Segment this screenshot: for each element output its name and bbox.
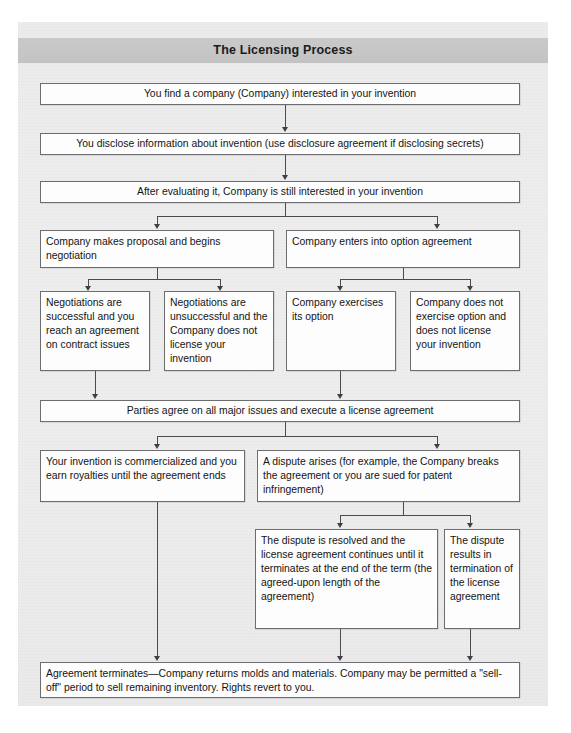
arrowhead-icon	[154, 656, 160, 661]
arrowhead-icon	[434, 444, 440, 449]
node-dispute-arises: A dispute arises (for example, the Compa…	[257, 450, 520, 502]
node-does-not-exercise-option: Company does not exercise option and doe…	[410, 291, 520, 371]
node-dispute-resolved-label: The dispute is resolved and the license …	[256, 534, 437, 604]
edge-find-to-disclose	[285, 105, 286, 129]
node-exercises-option-label: Company exercises its option	[287, 296, 395, 324]
node-execute-license-label: Parties agree on all major issues and ex…	[121, 404, 440, 418]
arrowhead-icon	[337, 394, 343, 399]
node-find-company: You find a company (Company) interested …	[40, 83, 520, 105]
node-negotiations-successful-label: Negotiations are successful and you reac…	[41, 296, 149, 352]
node-negotiations-unsuccessful: Negotiations are unsuccessful and the Co…	[164, 291, 274, 371]
arrowhead-icon	[337, 523, 343, 528]
arrowhead-icon	[92, 394, 98, 399]
node-commercialized-royalties-label: Your invention is commercialized and you…	[41, 455, 244, 483]
licensing-process-flowchart: The Licensing Process You find a company…	[0, 0, 571, 733]
node-option-agreement: Company enters into option agreement	[286, 230, 520, 268]
node-disclose-information-label: You disclose information about invention…	[70, 137, 489, 151]
node-execute-license: Parties agree on all major issues and ex…	[40, 400, 520, 422]
node-negotiations-unsuccessful-label: Negotiations are unsuccessful and the Co…	[165, 296, 273, 366]
node-dispute-resolved: The dispute is resolved and the license …	[255, 529, 438, 629]
node-commercialized-royalties: Your invention is commercialized and you…	[40, 450, 245, 502]
node-find-company-label: You find a company (Company) interested …	[138, 87, 422, 101]
edge-execute-split	[157, 436, 437, 437]
edge-interested-stem	[285, 203, 286, 217]
node-still-interested-label: After evaluating it, Company is still in…	[131, 185, 429, 199]
node-agreement-terminates-label: Agreement terminates—Company returns mol…	[41, 667, 519, 695]
edge-interested-split	[157, 216, 437, 217]
edge-termination-to-terminates	[470, 629, 471, 658]
figure-title: The Licensing Process	[18, 38, 548, 63]
node-agreement-terminates: Agreement terminates—Company returns mol…	[40, 662, 520, 698]
arrowhead-icon	[154, 224, 160, 229]
node-still-interested: After evaluating it, Company is still in…	[40, 181, 520, 203]
node-disclose-information: You disclose information about invention…	[40, 133, 520, 155]
arrowhead-icon	[282, 127, 288, 132]
node-dispute-termination-label: The dispute results in termination of th…	[445, 534, 519, 604]
edge-dispute-stem	[403, 502, 404, 516]
arrowhead-icon	[154, 444, 160, 449]
node-negotiations-successful: Negotiations are successful and you reac…	[40, 291, 150, 371]
edge-proposal-split	[88, 279, 220, 280]
node-dispute-termination: The dispute results in termination of th…	[444, 529, 520, 629]
arrowhead-icon	[434, 224, 440, 229]
edge-resolved-to-terminates	[340, 629, 341, 658]
node-dispute-arises-label: A dispute arises (for example, the Compa…	[258, 455, 519, 497]
node-does-not-exercise-option-label: Company does not exercise option and doe…	[411, 296, 519, 352]
edge-commercialized-to-terminates	[157, 502, 158, 658]
node-proposal-negotiation-label: Company makes proposal and begins negoti…	[41, 235, 273, 263]
arrowhead-icon	[337, 656, 343, 661]
edge-option-split	[340, 279, 470, 280]
edge-dispute-split	[340, 515, 470, 516]
edge-disclose-to-interested	[285, 155, 286, 177]
arrowhead-icon	[467, 523, 473, 528]
arrowhead-icon	[282, 175, 288, 180]
node-exercises-option: Company exercises its option	[286, 291, 396, 371]
edge-exercise-to-execute	[340, 371, 341, 396]
edge-execute-stem	[285, 422, 286, 437]
edge-successful-to-execute	[95, 371, 96, 396]
arrowhead-icon	[467, 656, 473, 661]
node-proposal-negotiation: Company makes proposal and begins negoti…	[40, 230, 274, 268]
node-option-agreement-label: Company enters into option agreement	[287, 235, 519, 249]
